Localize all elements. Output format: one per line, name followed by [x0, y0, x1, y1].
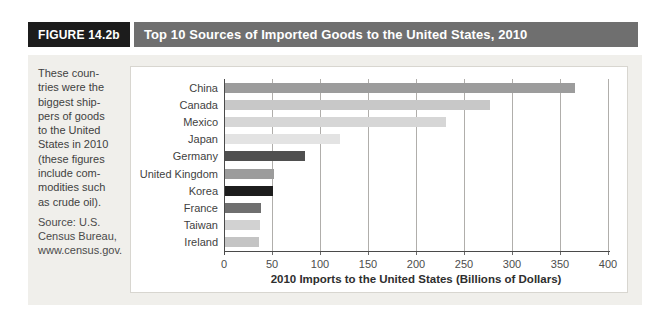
category-label: United Kingdom: [131, 167, 218, 181]
chart-card: 2010 Imports to the United States (Billi…: [130, 66, 628, 293]
x-axis-tick-label: 250: [444, 258, 484, 270]
category-label: Ireland: [131, 235, 218, 249]
category-label: China: [131, 81, 218, 95]
category-label: Japan: [131, 132, 218, 146]
bar-mexico: [225, 117, 446, 127]
content-panel: These coun- tries were the biggest ship-…: [28, 55, 642, 305]
x-axis-tick-label: 0: [204, 258, 244, 270]
bar-canada: [225, 100, 490, 110]
category-label: Korea: [131, 184, 218, 198]
category-label: Canada: [131, 98, 218, 112]
gridline: [512, 79, 513, 251]
bar-ireland: [225, 237, 259, 247]
figure-page: FIGURE 14.2b Top 10 Sources of Imported …: [0, 0, 659, 324]
figure-number-label: FIGURE 14.2b: [28, 22, 130, 47]
sidebar-source-text: Source: U.S. Census Bureau, www.census.g…: [38, 215, 138, 257]
x-axis-tick-label: 100: [300, 258, 340, 270]
figure-title-bar: Top 10 Sources of Imported Goods to the …: [134, 22, 638, 47]
bar-france: [225, 203, 261, 213]
bar-korea: [225, 186, 273, 196]
bar-germany: [225, 151, 305, 161]
bar-china: [225, 83, 575, 93]
x-axis-line: [224, 251, 610, 252]
category-label: France: [131, 201, 218, 215]
category-label: Germany: [131, 149, 218, 163]
x-axis-title: 2010 Imports to the United States (Billi…: [224, 273, 608, 285]
x-axis-tick-label: 50: [252, 258, 292, 270]
x-axis-tick-label: 150: [348, 258, 388, 270]
sidebar-caption-text: These coun- tries were the biggest ship-…: [38, 66, 138, 209]
x-axis-tick-label: 400: [588, 258, 628, 270]
category-label: Mexico: [131, 115, 218, 129]
gridline: [560, 79, 561, 251]
bar-japan: [225, 134, 340, 144]
bar-taiwan: [225, 220, 260, 230]
x-axis-tick-label: 350: [540, 258, 580, 270]
x-axis-tick-label: 200: [396, 258, 436, 270]
bar-united-kingdom: [225, 169, 274, 179]
x-axis-tick-label: 300: [492, 258, 532, 270]
category-label: Taiwan: [131, 218, 218, 232]
gridline: [608, 79, 609, 251]
